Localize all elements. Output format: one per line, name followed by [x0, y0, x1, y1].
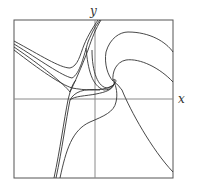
y-axis-label: y — [90, 4, 97, 18]
x-axis-label: x — [178, 92, 185, 106]
phase-portrait — [0, 0, 197, 185]
